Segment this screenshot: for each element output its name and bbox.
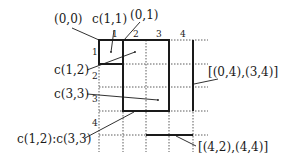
row-index-2: 2 xyxy=(92,71,98,81)
column-index-3: 3 xyxy=(156,29,162,39)
label-corner-0-0: (0,0) xyxy=(54,12,82,26)
column-index-4: 4 xyxy=(180,29,186,39)
label-cell-c33: c(3,3) xyxy=(54,87,89,101)
label-range-c12-c33: c(1,2):c(3,3) xyxy=(17,132,91,146)
row-index-1: 1 xyxy=(92,47,98,57)
label-edge-horizontal: [(4,2),(4,4)] xyxy=(198,140,268,154)
grid-diagram: 1 2 3 4 1 2 3 4 (0,0) c(1,1) (0,1) c(1,2… xyxy=(0,0,285,159)
label-cell-c11: c(1,1) xyxy=(92,12,127,26)
column-index-2: 2 xyxy=(133,29,139,39)
label-cell-c12: c(1,2) xyxy=(54,63,89,77)
label-edge-vertical: [(0,4),(3,4)] xyxy=(208,65,278,79)
label-corner-0-1: (0,1) xyxy=(130,8,158,22)
row-index-3: 3 xyxy=(92,94,98,104)
row-index-4: 4 xyxy=(92,118,98,128)
